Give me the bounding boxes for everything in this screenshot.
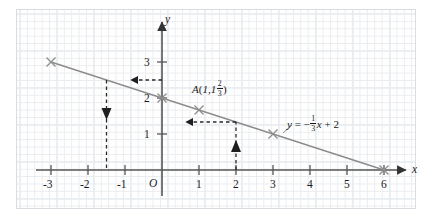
equation-label: y = −13x + 2 — [287, 115, 339, 133]
x-tick-label--3: -3 — [43, 179, 53, 191]
y-tick-label-1: 1 — [144, 129, 150, 141]
point-a-name: A — [192, 83, 199, 95]
origin-label: O — [149, 178, 157, 190]
x-tick-label-3: 3 — [270, 179, 276, 191]
y-tick-label-2: 2 — [144, 93, 150, 105]
point-a-y-whole: 1 — [211, 83, 217, 95]
x-tick-label--2: -2 — [80, 179, 90, 191]
point-a-y-fraction: 23 — [217, 80, 223, 98]
equation-intercept: 2 — [333, 118, 339, 130]
x-tick-label-6: 6 — [381, 179, 387, 191]
point-a-y-denominator: 3 — [217, 89, 223, 97]
x-tick-label--1: -1 — [117, 179, 127, 191]
construction-right-vertical — [231, 122, 241, 170]
equation-slope-denominator: 3 — [310, 124, 316, 132]
x-tick-label-2: 2 — [233, 179, 239, 191]
point-a-y-numerator: 2 — [217, 80, 223, 89]
y-tick-label-3: 3 — [144, 57, 150, 69]
x-tick-label-1: 1 — [196, 179, 202, 191]
construction-left-vertical — [102, 80, 112, 170]
point-a-label: A(1,123) — [192, 80, 227, 98]
equation-slope-fraction: 13 — [310, 115, 316, 133]
x-tick-label-4: 4 — [307, 179, 313, 191]
point-a-close-paren: ) — [223, 83, 227, 95]
equation-slope-numerator: 1 — [310, 115, 316, 124]
x-axis-label: x — [412, 164, 417, 176]
x-tick-label-5: 5 — [344, 179, 350, 191]
y-axis-label: y — [165, 14, 170, 26]
coordinate-plot — [0, 0, 432, 220]
graph-figure: -3 -2 -1 1 2 3 4 5 6 1 2 3 O x y A(1,123… — [0, 0, 432, 220]
equation-minus-sign: − — [304, 118, 310, 130]
